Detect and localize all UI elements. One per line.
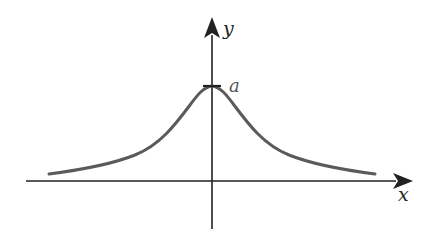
y-axis	[204, 17, 220, 229]
x-axis-label: x	[398, 183, 409, 205]
y-axis-arrow-icon	[204, 17, 220, 38]
peak-label: a	[229, 75, 240, 96]
y-axis-label: y	[222, 17, 234, 39]
x-axis	[26, 173, 413, 189]
function-graph: y x a	[0, 0, 435, 233]
